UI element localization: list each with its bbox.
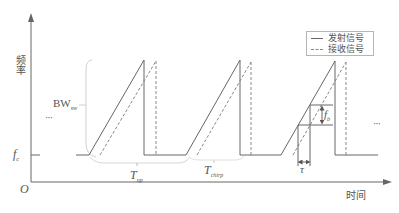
t-chirp-label: Tchirp — [204, 163, 223, 178]
solid-line-icon — [311, 38, 323, 39]
fb-label-sub: b — [327, 116, 330, 122]
t-up-label-sub: up — [137, 177, 143, 183]
fb-label: fb — [324, 108, 330, 122]
fc-label-sub: c — [16, 155, 19, 163]
x-axis — [31, 179, 392, 185]
t-chirp-label-main: T — [204, 163, 211, 177]
x-axis-arrow-icon — [383, 179, 392, 185]
legend: 发射信号 接收信号 — [306, 31, 374, 56]
dashed-line-icon — [311, 49, 323, 50]
legend-label-tx: 发射信号 — [328, 33, 364, 44]
t-chirp-brace — [189, 156, 244, 160]
y-axis-label: 频率 — [13, 55, 25, 75]
t-chirp-label-sub: chirp — [211, 172, 224, 178]
y-axis-arrow-icon — [28, 13, 34, 22]
ellipsis-left: ··· — [45, 112, 52, 123]
legend-item-tx: 发射信号 — [311, 33, 364, 44]
tx-signal — [76, 60, 378, 155]
fc-label: fc — [13, 147, 19, 163]
rx-signal — [100, 61, 346, 155]
t-up-brace — [90, 157, 190, 163]
t-up-label-main: T — [130, 168, 137, 182]
t-up-label: Tup — [130, 168, 143, 183]
bandwidth-label-sub: sw — [71, 105, 78, 111]
y-axis — [28, 13, 34, 182]
tau-label: τ — [300, 163, 304, 175]
legend-item-rx: 接收信号 — [311, 44, 364, 55]
legend-label-rx: 接收信号 — [328, 44, 364, 55]
origin-label: O — [20, 182, 29, 197]
x-axis-label: 时间 — [346, 187, 366, 202]
ellipsis-right: ··· — [373, 118, 380, 129]
bandwidth-label: BWsw — [53, 97, 77, 111]
bandwidth-label-main: BW — [53, 97, 71, 109]
bandwidth-brace — [86, 60, 96, 157]
